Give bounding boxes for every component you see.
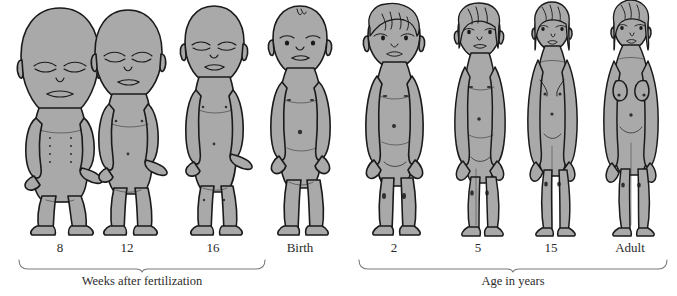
figure-16-weeks: [174, 2, 254, 236]
figure-row: [0, 0, 677, 236]
age-label-15-years: 15: [545, 240, 558, 256]
age-label-adult: Adult: [615, 240, 645, 256]
age-label-birth: Birth: [287, 240, 314, 256]
brace-postnatal: [358, 259, 668, 273]
figure-12-weeks: [86, 4, 170, 236]
age-label-16-weeks: 16: [207, 240, 220, 256]
figure-15-years: [517, 0, 587, 236]
age-label-5-years: 5: [475, 240, 482, 256]
figure-birth: [261, 0, 339, 236]
brace-prenatal: [18, 259, 266, 273]
developmental-proportions-figure: 8 12 16 Birth 2 5 15 Adult Weeks after f…: [0, 0, 677, 296]
figure-adult: [594, 0, 668, 236]
age-label-2-years: 2: [391, 240, 398, 256]
age-label-8-weeks: 8: [57, 240, 64, 256]
brace-caption-postnatal: Age in years: [481, 274, 544, 289]
age-label-12-weeks: 12: [121, 240, 134, 256]
figure-5-years: [444, 0, 514, 236]
brace-caption-prenatal: Weeks after fertilization: [82, 274, 202, 289]
figure-2-years: [356, 0, 432, 236]
